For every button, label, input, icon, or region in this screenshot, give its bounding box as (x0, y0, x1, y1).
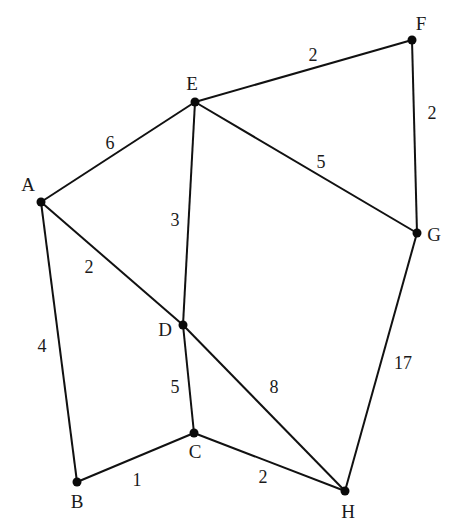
edge-e-g (195, 102, 417, 233)
edge-d-c (183, 325, 194, 433)
edge-c-h (194, 433, 345, 491)
edge-weight-e-g: 5 (317, 152, 326, 172)
node-f (408, 36, 417, 45)
edge-e-f (195, 40, 412, 102)
edge-weight-g-h: 17 (394, 353, 412, 373)
node-a (37, 198, 46, 207)
node-label-a: A (21, 174, 35, 195)
node-c (190, 429, 199, 438)
edge-weight-d-c: 5 (171, 377, 180, 397)
edge-f-g (412, 40, 417, 233)
edge-weight-a-b: 4 (38, 336, 47, 356)
edge-weight-b-c: 1 (133, 470, 142, 490)
edge-weight-a-d: 2 (85, 257, 94, 277)
node-label-e: E (186, 73, 198, 94)
node-d (179, 321, 188, 330)
edge-weight-a-e: 6 (106, 133, 115, 153)
node-b (73, 478, 82, 487)
node-label-d: D (158, 319, 172, 340)
edge-a-e (41, 102, 195, 202)
node-label-b: B (71, 491, 84, 512)
edge-weight-d-h: 8 (270, 377, 279, 397)
edge-e-d (183, 102, 195, 325)
edges-group (41, 40, 417, 491)
node-label-g: G (427, 224, 441, 245)
node-e (191, 98, 200, 107)
edge-weight-e-f: 2 (309, 45, 318, 65)
edge-a-d (41, 202, 183, 325)
node-label-c: C (189, 441, 202, 462)
node-g (413, 229, 422, 238)
node-label-f: F (416, 13, 427, 34)
edge-weight-labels: 6225324581712 (38, 45, 437, 490)
edge-weight-e-d: 3 (171, 210, 180, 230)
node-label-h: H (341, 501, 355, 522)
edge-weight-f-g: 2 (428, 103, 437, 123)
edge-weight-c-h: 2 (259, 467, 268, 487)
weighted-graph-diagram: 6225324581712 ABCDEFGH (0, 0, 464, 527)
node-h (341, 487, 350, 496)
